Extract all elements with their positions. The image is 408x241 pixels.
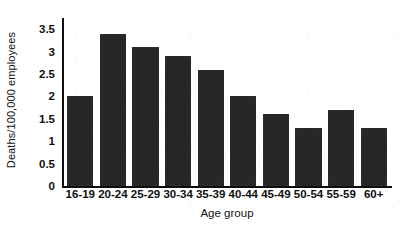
x-axis-tick-label: 20-24 xyxy=(98,188,127,200)
bar xyxy=(132,47,158,186)
x-axis-tick-label: 30-34 xyxy=(163,188,192,200)
x-axis-tick-label: 50-54 xyxy=(294,188,323,200)
y-axis-tick-label: 3.5 xyxy=(39,23,55,35)
y-axis-tick-label: 1.5 xyxy=(39,113,55,125)
x-axis-tick-label: 16-19 xyxy=(66,188,95,200)
bar-chart-figure: Deaths/100,000 employees 00.511.522.533.… xyxy=(0,0,408,241)
y-axis-title-text: Deaths/100,000 employees xyxy=(5,32,17,168)
bar xyxy=(328,110,354,186)
y-axis-tick-labels: 00.511.522.533.5 xyxy=(22,0,58,241)
bar xyxy=(361,128,387,186)
x-axis-tick-label: 55-59 xyxy=(326,188,355,200)
y-axis-title: Deaths/100,000 employees xyxy=(0,0,22,200)
bar xyxy=(295,128,321,186)
y-axis-tick-label: 0.5 xyxy=(39,158,55,170)
y-axis-tick-label: 0 xyxy=(49,180,55,192)
bars-group xyxy=(64,18,392,186)
y-axis-tick-label: 1 xyxy=(49,135,55,147)
bar xyxy=(198,70,224,186)
x-axis-tick-label: 35-39 xyxy=(196,188,225,200)
y-axis-tick-label: 2 xyxy=(49,90,55,102)
bar xyxy=(165,56,191,186)
bar xyxy=(230,96,256,186)
x-axis-title: Age group xyxy=(62,207,392,219)
x-axis-tick-label: 60+ xyxy=(364,188,384,200)
x-axis-tick-label: 25-29 xyxy=(131,188,160,200)
x-axis-tick-label: 45-49 xyxy=(261,188,290,200)
y-axis-tick-label: 3 xyxy=(49,46,55,58)
bar xyxy=(100,34,126,186)
bar xyxy=(263,114,289,186)
bar xyxy=(67,96,93,186)
y-axis-tick-label: 2.5 xyxy=(39,68,55,80)
x-axis-tick-labels: 16-1920-2425-2930-3435-3940-4445-4950-54… xyxy=(62,188,392,206)
x-axis-tick-label: 40-44 xyxy=(229,188,258,200)
plot-area xyxy=(62,18,392,186)
